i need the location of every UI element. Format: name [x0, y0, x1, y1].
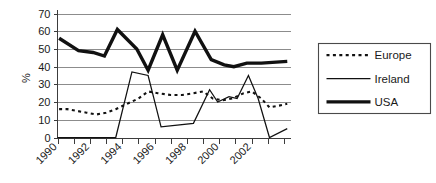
x-tick-label: 1992 — [65, 140, 91, 166]
x-tick-label: 1990 — [33, 140, 59, 166]
y-tick-labels: 010203040506070 — [38, 8, 50, 144]
y-axis — [54, 10, 58, 139]
series-line-ireland — [58, 72, 288, 138]
x-tick-labels: 1990199219941996199820002002 — [33, 140, 253, 166]
x-tick-label: 1998 — [163, 140, 189, 166]
legend-label-ireland: Ireland — [375, 73, 410, 85]
y-axis-title: % — [20, 73, 32, 83]
gridlines — [58, 15, 291, 121]
x-tick-label: 1994 — [98, 140, 124, 166]
y-tick-label: 60 — [38, 25, 50, 37]
legend-label-usa: USA — [375, 96, 399, 108]
x-tick-label: 2002 — [227, 140, 253, 166]
y-tick-label: 40 — [38, 61, 50, 73]
y-tick-label: 10 — [38, 114, 50, 126]
y-tick-label: 30 — [38, 78, 50, 90]
x-tick-label: 1996 — [130, 140, 156, 166]
y-tick-label: 70 — [38, 8, 50, 20]
y-tick-label: 50 — [38, 43, 50, 55]
y-tick-label: 20 — [38, 96, 50, 108]
line-chart-figure: 010203040506070 199019921994199619982000… — [0, 0, 436, 183]
data-series — [58, 29, 288, 137]
x-axis — [58, 139, 291, 144]
chart-canvas: 010203040506070 199019921994199619982000… — [0, 0, 436, 183]
chart-legend: EuropeIrelandUSA — [319, 44, 431, 114]
legend-label-europe: Europe — [375, 49, 412, 61]
x-tick-label: 2000 — [195, 140, 221, 166]
